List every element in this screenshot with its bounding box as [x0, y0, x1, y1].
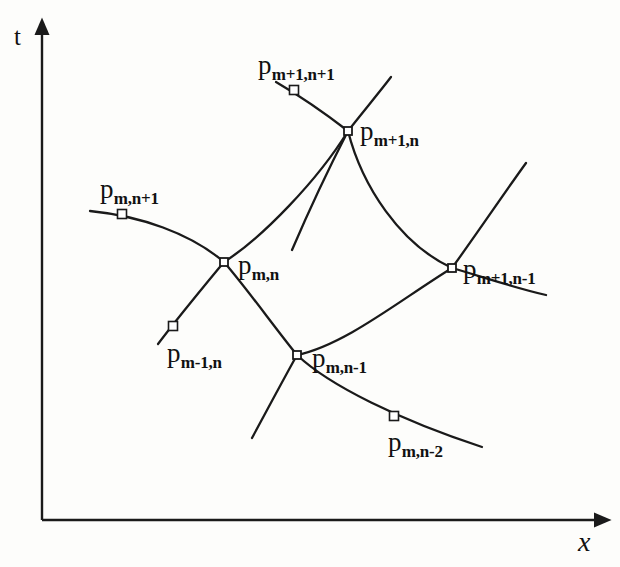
point-label-subscript: m,n: [252, 265, 279, 284]
point-label-p-m-n1: pm,n+1: [100, 176, 159, 203]
y-axis-label: t: [14, 24, 21, 49]
point-label-base: p: [100, 174, 114, 204]
point-label-base: p: [258, 50, 272, 80]
point-marker: [169, 322, 178, 331]
point-label-subscript: m+1,n: [374, 131, 419, 150]
grid-node-marker: [448, 264, 456, 272]
point-label-p-m1-n: pm+1,n: [360, 118, 419, 145]
characteristic-curve: [252, 355, 297, 438]
point-marker: [118, 210, 127, 219]
point-label-subscript: m+1,n-1: [477, 269, 536, 288]
characteristic-curve: [348, 131, 452, 268]
point-marker: [290, 86, 299, 95]
point-label-base: p: [312, 343, 326, 373]
point-label-p-m-n-2: pm,n-2: [388, 429, 443, 456]
point-label-subscript: m,n-2: [402, 442, 443, 461]
x-axis-label: x: [578, 528, 590, 556]
characteristic-curve: [224, 131, 348, 262]
characteristic-curve: [292, 131, 348, 250]
characteristic-curve: [90, 211, 224, 262]
point-label-p-m-1-n: pm-1,n: [167, 340, 222, 367]
point-label-subscript: m-1,n: [181, 353, 222, 372]
point-label-p-m-n: pm,n: [238, 252, 279, 279]
grid-node-marker: [220, 258, 228, 266]
point-marker: [390, 412, 399, 421]
point-label-base: p: [360, 116, 374, 146]
point-label-p-m-n-1: pm,n-1: [312, 345, 367, 372]
grid-node-marker: [293, 351, 301, 359]
diagram-canvas: t x pm,npm+1,npm,n-1pm+1,n-1pm,n+1pm+1,n…: [0, 0, 620, 567]
characteristic-curve: [276, 82, 348, 131]
grid-node-marker: [344, 127, 352, 135]
point-label-subscript: m,n+1: [114, 189, 159, 208]
point-label-base: p: [238, 250, 252, 280]
point-label-p-m1-n1: pm+1,n+1: [258, 52, 335, 79]
characteristic-curve: [452, 163, 526, 268]
point-label-base: p: [388, 427, 402, 457]
point-label-subscript: m+1,n+1: [272, 65, 335, 84]
point-label-base: p: [167, 338, 181, 368]
characteristic-curve: [297, 268, 452, 355]
point-label-base: p: [463, 254, 477, 284]
point-label-subscript: m,n-1: [326, 358, 367, 377]
intersection-nodes: [220, 127, 456, 359]
point-label-p-m1-n-1: pm+1,n-1: [463, 256, 536, 283]
characteristic-curve: [158, 262, 224, 344]
